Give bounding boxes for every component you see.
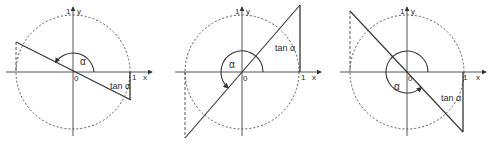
x-axis-label: x <box>143 73 147 82</box>
y-axis-label: y <box>246 7 250 16</box>
tangent-label: tan α <box>110 81 130 91</box>
x-tick-label: 1 <box>301 73 306 82</box>
x-tick-label: 1 <box>132 73 137 82</box>
panel-3: 1 y 1 x 0 α tan α <box>340 7 486 136</box>
origin-label: 0 <box>243 74 248 83</box>
tangent-label: tan α <box>441 93 461 103</box>
tangent-unit-circle-figure: 1 y 1 x 0 α tan α 1 y 1 x 0 α tan α 1 y … <box>0 0 496 146</box>
origin-label: 0 <box>74 74 79 83</box>
tangent-label: tan α <box>275 43 295 53</box>
y-tick-label: 1 <box>66 7 71 16</box>
origin-label: 0 <box>408 74 413 83</box>
x-axis-label: x <box>476 73 480 82</box>
y-axis-label: y <box>77 7 81 16</box>
y-axis-label: y <box>411 7 415 16</box>
y-tick-label: 1 <box>235 7 240 16</box>
angle-label: α <box>394 81 400 92</box>
y-tick-label: 1 <box>400 7 405 16</box>
panel-2: 1 y 1 x 0 α tan α <box>175 5 321 138</box>
angle-arc-arrow-icon <box>56 53 95 72</box>
x-axis-label: x <box>312 73 316 82</box>
angle-label: α <box>80 56 86 67</box>
x-tick-label: 1 <box>463 73 468 82</box>
angle-label: α <box>229 59 235 70</box>
panel-1: 1 y 1 x 0 α tan α <box>6 7 152 136</box>
